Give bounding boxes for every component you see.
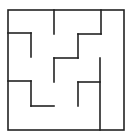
maze-inner-walls	[8, 10, 101, 130]
maze-diagram	[0, 0, 129, 138]
maze-outer-wall	[8, 10, 124, 130]
